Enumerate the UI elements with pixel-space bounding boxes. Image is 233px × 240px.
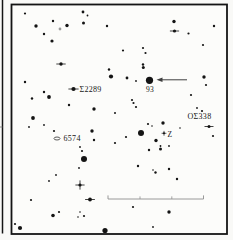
star-dot bbox=[196, 107, 198, 109]
star-dot bbox=[30, 199, 32, 201]
star-dot bbox=[93, 139, 95, 141]
star-dot bbox=[202, 75, 205, 78]
star-dot bbox=[138, 130, 144, 136]
star-dot bbox=[167, 210, 170, 213]
star-dot bbox=[34, 24, 37, 27]
star-dot bbox=[82, 22, 85, 25]
star-dot bbox=[125, 136, 127, 138]
label-n6574: 6574 bbox=[64, 134, 81, 143]
star-dot bbox=[168, 145, 170, 147]
star-dot bbox=[151, 125, 153, 127]
star-dot bbox=[51, 214, 55, 218]
star-dot bbox=[159, 148, 162, 151]
star-dot bbox=[172, 20, 175, 23]
star-dot bbox=[68, 104, 70, 106]
star-dot bbox=[28, 126, 30, 128]
star-dot bbox=[114, 112, 116, 114]
star-dot bbox=[122, 49, 124, 51]
star-dot bbox=[81, 156, 87, 162]
star-dot bbox=[144, 52, 146, 54]
star-dot bbox=[137, 165, 139, 167]
star-dot bbox=[48, 180, 50, 182]
star-dot bbox=[102, 228, 107, 233]
scanned-figure: Σ228993ΟΣ3386574Z bbox=[0, 0, 233, 240]
star-dot bbox=[205, 84, 207, 86]
star-dot bbox=[135, 106, 137, 108]
star-dot bbox=[82, 11, 85, 14]
star-dot bbox=[90, 129, 93, 132]
star-dot bbox=[147, 123, 149, 125]
star-dot bbox=[50, 39, 53, 42]
star-dot bbox=[176, 178, 178, 180]
finder-chart: Σ228993ΟΣ3386574Z bbox=[0, 0, 233, 240]
star-dot bbox=[146, 77, 153, 84]
star-dot bbox=[208, 125, 211, 128]
star-dot bbox=[161, 121, 164, 124]
star-dot bbox=[87, 15, 89, 17]
star-dot bbox=[59, 28, 62, 31]
star-dot bbox=[152, 169, 154, 171]
star-dot bbox=[78, 183, 81, 186]
label-os338: ΟΣ338 bbox=[188, 112, 212, 121]
star-dot bbox=[190, 94, 192, 96]
star-dot bbox=[132, 102, 134, 104]
star-dot bbox=[58, 211, 60, 213]
star-dot bbox=[53, 130, 55, 132]
star-dot bbox=[79, 211, 81, 213]
star-dot bbox=[83, 215, 85, 217]
star-dot bbox=[71, 87, 75, 91]
label-sigma2289: Σ2289 bbox=[80, 85, 102, 94]
star-dot bbox=[24, 81, 26, 83]
star-dot bbox=[43, 91, 45, 93]
star-dot bbox=[114, 142, 116, 144]
star-dot bbox=[92, 107, 95, 110]
star-dot bbox=[142, 63, 144, 65]
label-star93: 93 bbox=[146, 85, 154, 94]
star-dot bbox=[168, 168, 170, 170]
star-dot bbox=[187, 32, 189, 34]
star-dot bbox=[212, 135, 214, 137]
star-dot bbox=[142, 66, 145, 69]
star-dot bbox=[213, 25, 215, 27]
star-dot bbox=[43, 33, 45, 35]
star-dot bbox=[202, 44, 204, 46]
star-dot bbox=[78, 167, 80, 169]
star-dot bbox=[65, 24, 68, 27]
star-dot bbox=[14, 223, 16, 225]
star-dot bbox=[106, 25, 108, 27]
star-dot bbox=[52, 20, 54, 22]
star-dot bbox=[59, 62, 62, 65]
star-dot bbox=[173, 29, 176, 32]
star-dot bbox=[131, 99, 133, 101]
star-dot bbox=[81, 150, 83, 152]
star-dot bbox=[154, 139, 157, 142]
star-dot bbox=[132, 206, 134, 208]
star-dot bbox=[148, 149, 150, 151]
star-dot bbox=[152, 226, 154, 228]
star-dot bbox=[154, 171, 156, 173]
star-dot bbox=[55, 174, 57, 176]
star-dot bbox=[18, 226, 22, 230]
star-dot bbox=[31, 97, 33, 99]
star-dot bbox=[142, 47, 144, 49]
star-dot bbox=[31, 116, 35, 120]
star-dot bbox=[160, 145, 162, 147]
star-dot bbox=[108, 68, 110, 70]
star-dot bbox=[79, 146, 81, 148]
star-dot bbox=[88, 198, 92, 202]
star-dot bbox=[135, 80, 137, 82]
star-dot bbox=[24, 12, 26, 14]
star-dot bbox=[47, 95, 51, 99]
star-dot bbox=[77, 216, 79, 218]
label-varZ: Z bbox=[168, 130, 173, 139]
star-dot bbox=[179, 127, 181, 129]
star-dot bbox=[109, 74, 113, 78]
star-dot bbox=[126, 77, 129, 80]
star-dot bbox=[43, 124, 45, 126]
